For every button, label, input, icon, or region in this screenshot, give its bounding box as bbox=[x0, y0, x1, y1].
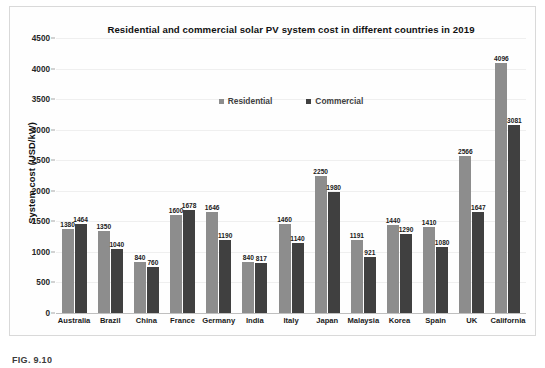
bar-value-label: 1040 bbox=[109, 241, 124, 248]
y-tick-mark bbox=[51, 251, 55, 252]
bar-value-label: 817 bbox=[256, 255, 267, 262]
x-tick-label: France bbox=[164, 316, 200, 325]
bar[interactable] bbox=[508, 125, 520, 313]
bar-value-label: 1410 bbox=[422, 219, 437, 226]
bar-group: 840760 bbox=[128, 38, 164, 313]
y-tick-label: 1500 bbox=[32, 217, 50, 226]
x-axis-labels: AustraliaBrazilChinaFranceGermanyIndiaIt… bbox=[56, 316, 526, 325]
bar[interactable] bbox=[423, 227, 435, 313]
bar-group: 13501040 bbox=[92, 38, 128, 313]
x-tick-label: Italy bbox=[273, 316, 309, 325]
bar-value-label: 3081 bbox=[507, 117, 522, 124]
bar[interactable] bbox=[75, 224, 87, 313]
bar[interactable] bbox=[436, 247, 448, 313]
bar-column: 1080 bbox=[436, 38, 448, 313]
y-tick-label: 3500 bbox=[32, 95, 50, 104]
bar-column: 1190 bbox=[219, 38, 231, 313]
x-tick-label: Spain bbox=[418, 316, 454, 325]
bar-column: 2250 bbox=[315, 38, 327, 313]
bar[interactable] bbox=[170, 215, 182, 313]
bar-value-label: 1464 bbox=[73, 216, 88, 223]
y-tick-label: 4000 bbox=[32, 64, 50, 73]
bar-column: 1460 bbox=[279, 38, 291, 313]
bar-column: 1600 bbox=[170, 38, 182, 313]
bar-column: 1980 bbox=[328, 38, 340, 313]
x-tick-label: Germany bbox=[201, 316, 237, 325]
y-tick-mark bbox=[51, 221, 55, 222]
chart-title: Residential and commercial solar PV syst… bbox=[56, 24, 526, 35]
bar-column: 1647 bbox=[472, 38, 484, 313]
bar[interactable] bbox=[183, 210, 195, 313]
bar-value-label: 1440 bbox=[386, 217, 401, 224]
y-tick-label: 2500 bbox=[32, 156, 50, 165]
y-tick-label: 4500 bbox=[32, 34, 50, 43]
bar-column: 1646 bbox=[206, 38, 218, 313]
bar-value-label: 1646 bbox=[205, 204, 220, 211]
bar[interactable] bbox=[219, 240, 231, 313]
bar-column: 760 bbox=[147, 38, 159, 313]
bar-column: 1191 bbox=[351, 38, 363, 313]
bar[interactable] bbox=[292, 243, 304, 313]
y-tick-label: 1000 bbox=[32, 247, 50, 256]
bar-value-label: 4096 bbox=[494, 55, 509, 62]
bar[interactable] bbox=[134, 262, 146, 313]
y-tick-mark bbox=[51, 99, 55, 100]
bar-column: 1440 bbox=[387, 38, 399, 313]
x-tick-label: India bbox=[237, 316, 273, 325]
bar-value-label: 840 bbox=[134, 254, 145, 261]
gridline bbox=[56, 313, 526, 314]
bar-value-label: 1980 bbox=[326, 184, 341, 191]
bar-column: 4096 bbox=[495, 38, 507, 313]
bar[interactable] bbox=[387, 225, 399, 313]
y-tick-mark bbox=[51, 313, 55, 314]
bar[interactable] bbox=[206, 212, 218, 313]
plot-area: 050010001500200025003000350040004500 138… bbox=[56, 38, 526, 313]
bar-group: 13801464 bbox=[56, 38, 92, 313]
y-tick-label: 500 bbox=[36, 278, 50, 287]
x-tick-label: Australia bbox=[56, 316, 92, 325]
bar-group: 1191921 bbox=[345, 38, 381, 313]
bar-value-label: 1350 bbox=[96, 223, 111, 230]
bar-value-label: 921 bbox=[364, 249, 375, 256]
bar[interactable] bbox=[400, 234, 412, 313]
bar-group: 840817 bbox=[237, 38, 273, 313]
x-tick-label: China bbox=[128, 316, 164, 325]
bar-group: 14101080 bbox=[418, 38, 454, 313]
bar-column: 840 bbox=[134, 38, 146, 313]
bar[interactable] bbox=[111, 249, 123, 313]
y-tick-mark bbox=[51, 129, 55, 130]
bar-value-label: 1678 bbox=[182, 202, 197, 209]
bar-column: 1290 bbox=[400, 38, 412, 313]
bar-value-label: 1647 bbox=[471, 204, 486, 211]
bar-column: 3081 bbox=[508, 38, 520, 313]
bar-column: 921 bbox=[364, 38, 376, 313]
bar[interactable] bbox=[495, 63, 507, 313]
bar[interactable] bbox=[472, 212, 484, 313]
bar[interactable] bbox=[459, 156, 471, 313]
y-tick-label: 0 bbox=[45, 309, 50, 318]
bar-group: 14601140 bbox=[273, 38, 309, 313]
bar-value-label: 760 bbox=[147, 259, 158, 266]
bar[interactable] bbox=[147, 267, 159, 313]
bar[interactable] bbox=[315, 176, 327, 314]
bar[interactable] bbox=[351, 240, 363, 313]
bar[interactable] bbox=[255, 263, 267, 313]
bar-column: 2566 bbox=[459, 38, 471, 313]
bar-value-label: 2566 bbox=[458, 148, 473, 155]
bar-value-label: 840 bbox=[243, 254, 254, 261]
bar[interactable] bbox=[328, 192, 340, 313]
y-tick-mark bbox=[51, 38, 55, 39]
bar[interactable] bbox=[242, 262, 254, 313]
bar[interactable] bbox=[364, 257, 376, 313]
y-tick-mark bbox=[51, 190, 55, 191]
bar[interactable] bbox=[98, 231, 110, 314]
x-tick-label: Korea bbox=[381, 316, 417, 325]
bar-column: 1678 bbox=[183, 38, 195, 313]
bar-value-label: 1290 bbox=[399, 226, 414, 233]
bar-group: 22501980 bbox=[309, 38, 345, 313]
bar[interactable] bbox=[62, 229, 74, 313]
bar-column: 1350 bbox=[98, 38, 110, 313]
bar-group: 40963081 bbox=[490, 38, 526, 313]
bar[interactable] bbox=[279, 224, 291, 313]
x-tick-label: Japan bbox=[309, 316, 345, 325]
